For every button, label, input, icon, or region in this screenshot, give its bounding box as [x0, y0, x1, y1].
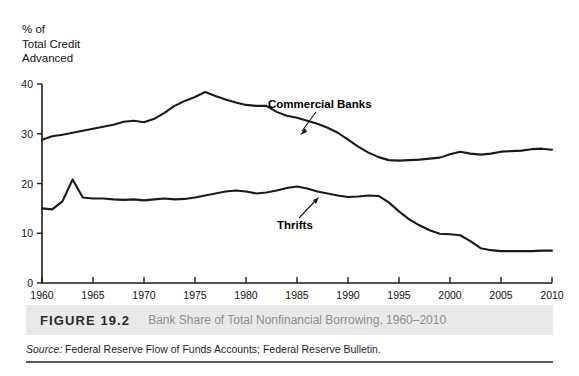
y-tick-label-0: 0	[27, 277, 33, 289]
y-tick-label-20: 20	[21, 178, 33, 190]
x-tick-label-2000: 2000	[438, 289, 461, 301]
figure-source-line: Source: Federal Reserve Flow of Funds Ac…	[26, 343, 553, 355]
x-tick-label-1990: 1990	[336, 289, 359, 301]
series-label-commercial-banks: Commercial Banks	[268, 98, 372, 110]
series-line-thrifts	[42, 180, 552, 252]
x-tick-label-1965: 1965	[81, 289, 104, 301]
bottom-divider	[26, 361, 553, 363]
x-tick-label-2010: 2010	[540, 289, 563, 301]
x-tick-label-1970: 1970	[132, 289, 155, 301]
plot-area: 010203040 196019651970197519801985199019…	[0, 0, 579, 305]
series-label-thrifts: Thrifts	[277, 219, 313, 231]
figure-caption-band: FIGURE 19.2 Bank Share of Total Nonfinan…	[26, 305, 553, 335]
figure-caption-text: Bank Share of Total Nonfinancial Borrowi…	[148, 313, 446, 327]
figure-container: % of Total Credit Advanced 010203040 196…	[0, 0, 579, 376]
x-tick-label-1975: 1975	[183, 289, 206, 301]
x-axis-ticks	[42, 277, 552, 283]
y-tick-label-40: 40	[21, 78, 33, 90]
y-tick-label-10: 10	[21, 227, 33, 239]
y-tick-label-30: 30	[21, 128, 33, 140]
x-tick-label-1985: 1985	[285, 289, 308, 301]
x-tick-label-2005: 2005	[489, 289, 512, 301]
figure-number: FIGURE 19.2	[40, 313, 130, 328]
x-tick-label-1960: 1960	[30, 289, 53, 301]
x-tick-label-1980: 1980	[234, 289, 257, 301]
x-tick-label-1995: 1995	[387, 289, 410, 301]
source-text: Federal Reserve Flow of Funds Accounts; …	[62, 343, 381, 355]
line-chart-svg	[0, 0, 579, 305]
leader-arrow-thrifts	[299, 197, 319, 218]
source-label: Source:	[26, 343, 62, 355]
